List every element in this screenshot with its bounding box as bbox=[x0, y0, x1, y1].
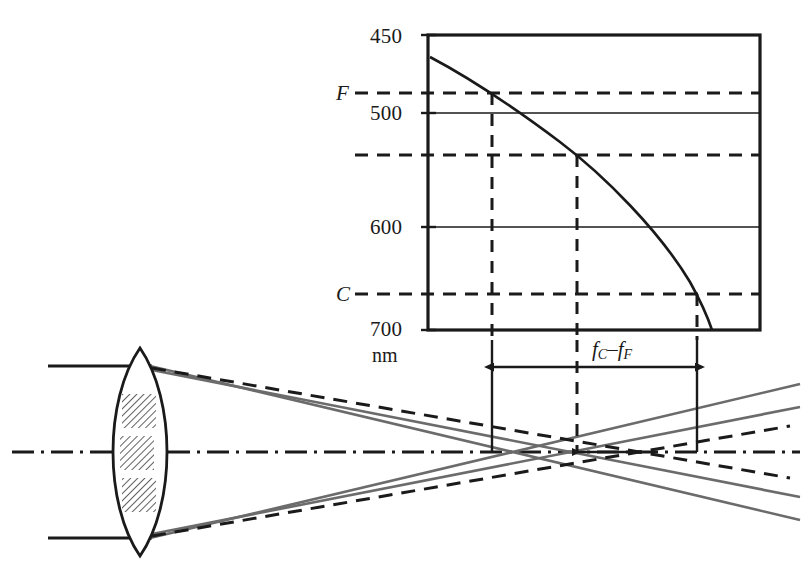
y-axis-unit-label: nm bbox=[372, 344, 398, 367]
ray-diagram bbox=[12, 340, 800, 556]
focal-difference-sub-C: C bbox=[598, 347, 607, 362]
y-tick-label-600: 600 bbox=[370, 215, 402, 240]
focal-difference-minus: – bbox=[607, 337, 618, 361]
lens-hatch-lower bbox=[122, 478, 156, 512]
marker-label-C: C bbox=[336, 282, 350, 307]
lens-hatch-middle bbox=[120, 436, 154, 470]
y-tick-label-700: 700 bbox=[370, 317, 402, 342]
ray-C-upper bbox=[152, 370, 800, 497]
y-tick-label-450: 450 bbox=[370, 24, 402, 49]
ray-C-lower bbox=[152, 407, 800, 534]
marker-label-F: F bbox=[336, 81, 349, 106]
lens-hatch-upper bbox=[122, 394, 156, 428]
chart-plot-area bbox=[355, 35, 760, 340]
focal-difference-sub-F: F bbox=[624, 347, 633, 362]
focal-difference-label: fC–fF bbox=[592, 337, 632, 363]
lens bbox=[113, 348, 167, 556]
y-tick-label-500: 500 bbox=[370, 101, 402, 126]
figure-canvas bbox=[0, 0, 812, 571]
chart-border bbox=[428, 35, 760, 330]
